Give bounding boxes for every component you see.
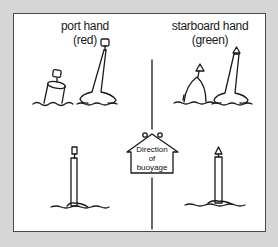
starboard-conical-buoy-icon [174, 64, 214, 104]
port-pillar-buoy-icon [51, 147, 109, 208]
direction-of-buoyage-label: Direction of buoyage [130, 145, 174, 172]
direction-text-line1: Direction [130, 145, 174, 154]
starboard-spar-buoy-icon [212, 47, 252, 105]
port-can-buoy-icon [33, 69, 73, 105]
circle-icon [143, 133, 147, 137]
buoyage-illustration [0, 0, 278, 247]
direction-text-line2: of [130, 154, 174, 163]
starboard-pillar-buoy-icon [185, 147, 245, 206]
direction-text-line3: buoyage [130, 163, 174, 172]
port-spar-buoy-icon [77, 39, 117, 105]
circle-icon [158, 133, 162, 137]
